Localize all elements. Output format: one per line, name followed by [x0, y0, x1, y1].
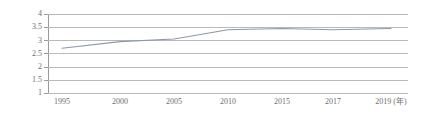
y-tick-label: 2.5 — [2, 50, 42, 58]
x-tick-label: 2005 — [166, 97, 182, 106]
y-tick-label: 3 — [2, 37, 42, 45]
x-tick-label: 2000 — [112, 97, 128, 106]
plot-area — [48, 14, 408, 93]
y-tick-label: 1 — [2, 89, 42, 97]
x-tick-label: 2010 — [220, 97, 236, 106]
y-tick-label: 2 — [2, 63, 42, 71]
x-tick-label: 1995 — [54, 97, 70, 106]
x-axis-labels: 1995 2000 2005 2010 2015 2017 2019 (年) — [0, 97, 422, 111]
x-tick-label: 2017 — [325, 97, 341, 106]
y-tick-label: 4 — [2, 10, 42, 18]
y-tick-label: 3.5 — [2, 23, 42, 31]
x-tick-label-with-unit: 2019 (年) — [375, 97, 406, 106]
gridline — [48, 93, 408, 94]
data-series-line — [48, 14, 408, 93]
line-chart: 4 3.5 3 2.5 2 1.5 1 1995 2000 2005 2010 … — [0, 0, 422, 127]
y-tick-label: 1.5 — [2, 76, 42, 84]
x-tick-label: 2015 — [274, 97, 290, 106]
